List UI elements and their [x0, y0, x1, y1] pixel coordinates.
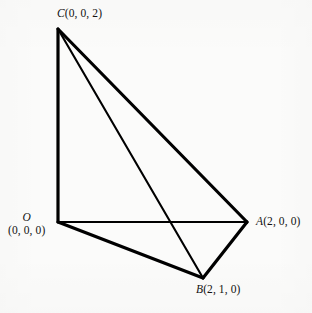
figure-canvas: C(0, 0, 2) O(0, 0, 0) A(2, 0, 0) B(2, 1,…: [0, 0, 312, 313]
vertex-label-a: A(2, 0, 0): [256, 215, 300, 228]
tetrahedron-diagram: [0, 0, 312, 313]
edge-A-B: [203, 222, 247, 278]
vertex-label-b: B(2, 1, 0): [196, 283, 240, 296]
vertex-point-c: C: [57, 7, 65, 19]
vertex-point-o: O: [8, 211, 45, 224]
vertex-label-c: C(0, 0, 2): [57, 7, 102, 20]
vertex-label-o: O(0, 0, 0): [8, 211, 45, 237]
vertex-coords-a: (2, 0, 0): [263, 215, 300, 227]
edge-O-B: [58, 222, 203, 278]
vertex-coords-c: (0, 0, 2): [65, 7, 102, 19]
edge-group: [58, 29, 247, 278]
vertex-coords-b: (2, 1, 0): [203, 283, 240, 295]
vertex-coords-o: (0, 0, 0): [8, 224, 45, 237]
